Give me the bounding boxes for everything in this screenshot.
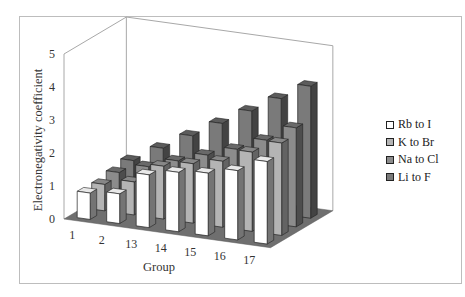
x-tick-label: 14: [155, 241, 167, 255]
legend-label: K to Br: [398, 134, 434, 152]
legend-swatch-icon: [386, 121, 394, 129]
x-tick-label: 1: [69, 228, 75, 242]
bar-rb-to-i-group-1: [77, 187, 97, 219]
x-tick-label: 15: [184, 245, 196, 259]
x-tick-label: 17: [243, 253, 255, 267]
bar-rb-to-i-group-16: [225, 165, 245, 240]
legend-item: K to Br: [386, 134, 439, 152]
bar-rb-to-i-group-2: [107, 188, 127, 223]
legend-label: Li to F: [398, 169, 431, 187]
bar-rb-to-i-group-15: [195, 167, 215, 235]
y-tick-label: 0: [49, 212, 55, 226]
y-tick-label: 5: [49, 47, 55, 61]
legend-item: Rb to I: [386, 116, 439, 134]
y-tick-label: 2: [49, 146, 55, 160]
legend-item: Na to Cl: [386, 151, 439, 169]
y-axis-ticks: 012345: [49, 47, 55, 226]
x-tick-label: 16: [214, 249, 226, 263]
chart-legend: Rb to IK to BrNa to ClLi to F: [386, 116, 439, 186]
x-tick-label: 2: [99, 233, 105, 247]
y-axis-title: Electronegativity coefficient: [31, 68, 45, 211]
bar-rb-to-i-group-13: [136, 169, 156, 227]
bar-rb-to-i-group-17: [254, 156, 274, 244]
legend-swatch-icon: [386, 173, 394, 181]
legend-item: Li to F: [386, 169, 439, 187]
y-tick-label: 4: [49, 80, 55, 94]
legend-label: Rb to I: [398, 116, 431, 134]
chart-bars: [77, 81, 317, 244]
x-axis-title: Group: [143, 260, 175, 274]
legend-label: Na to Cl: [398, 151, 439, 169]
legend-swatch-icon: [386, 156, 394, 164]
x-tick-label: 13: [125, 237, 137, 251]
y-tick-label: 3: [49, 113, 55, 127]
y-tick-label: 1: [49, 179, 55, 193]
bar-rb-to-i-group-14: [166, 167, 186, 232]
legend-swatch-icon: [386, 138, 394, 146]
